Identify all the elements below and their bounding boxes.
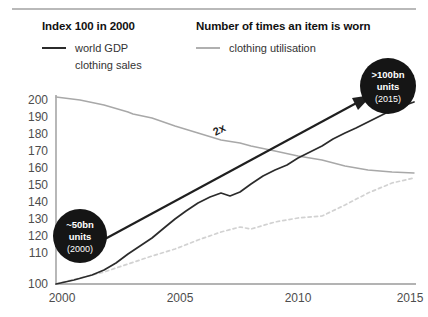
growth-arrow-2x: 2x (92, 95, 372, 246)
y-tick-150: 150 (28, 178, 48, 192)
y-tick-170: 170 (28, 144, 48, 158)
chart-plot: 200 190 180 170 160 150 140 130 120 110 … (0, 0, 428, 317)
series-line-world-gdp (56, 102, 414, 284)
bubble-2015-line3: (2015) (375, 94, 401, 104)
bubble-2000-line1: ~50bn (66, 219, 94, 230)
y-tick-180: 180 (28, 127, 48, 141)
x-axis-tick-labels: 2000 2005 2010 2015 (49, 291, 424, 305)
bubble-2015-line1: >100bn (371, 69, 404, 80)
y-axis-tick-labels: 200 190 180 170 160 150 140 130 120 110 … (28, 93, 48, 291)
y-tick-160: 160 (28, 161, 48, 175)
bubble-2000-line2: units (69, 231, 92, 242)
bubble-2000-line3: (2000) (67, 244, 93, 254)
bubble-2015-line2: units (377, 81, 400, 92)
x-tick-2005: 2005 (167, 291, 194, 305)
x-tick-2015: 2015 (397, 291, 424, 305)
y-tick-120: 120 (28, 229, 48, 243)
growth-arrow-label: 2x (211, 121, 228, 138)
chart-container: Index 100 in 2000 world GDP clothing sal… (0, 0, 428, 317)
y-tick-110: 110 (29, 246, 48, 260)
x-tick-2010: 2010 (285, 291, 312, 305)
annotation-bubble-2000[interactable]: ~50bn units (2000) (53, 209, 107, 263)
y-tick-200: 200 (28, 93, 48, 107)
y-tick-100: 100 (28, 277, 48, 291)
annotation-bubble-2015[interactable]: >100bn units (2015) (360, 58, 416, 114)
axis-lines (56, 95, 416, 284)
y-tick-140: 140 (28, 195, 48, 209)
y-tick-130: 130 (28, 212, 48, 226)
y-tick-190: 190 (28, 110, 48, 124)
series-line-clothing-utilisation (56, 97, 414, 173)
x-tick-2000: 2000 (49, 291, 76, 305)
